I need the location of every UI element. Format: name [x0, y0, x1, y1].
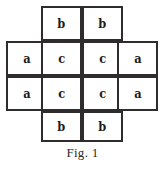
cell-label: a — [134, 53, 141, 65]
grid-cell: a — [117, 76, 158, 111]
cell-label: a — [23, 53, 30, 65]
grid-cell: a — [117, 41, 158, 76]
cell-label: a — [134, 88, 141, 100]
cell-label: c — [58, 88, 65, 100]
cross-grid: b b a c c a a c c a b — [0, 0, 165, 146]
cell-label: c — [99, 88, 106, 100]
figure-container: b b a c c a a c c a b — [0, 0, 165, 171]
figure-caption: Fig. 1 — [0, 145, 165, 161]
cell-label: b — [58, 18, 66, 30]
cell-label: a — [23, 88, 30, 100]
grid-cell: b — [82, 6, 123, 41]
grid-cell: b — [41, 6, 82, 41]
cell-label: c — [58, 53, 65, 65]
cell-label: b — [58, 121, 66, 133]
grid-cell: b — [82, 111, 123, 142]
grid-cell: c — [41, 41, 82, 76]
grid-cell: c — [41, 76, 82, 111]
grid-cell: b — [41, 111, 82, 142]
cell-label: b — [99, 121, 107, 133]
cell-label: b — [99, 18, 107, 30]
cell-label: c — [99, 53, 106, 65]
